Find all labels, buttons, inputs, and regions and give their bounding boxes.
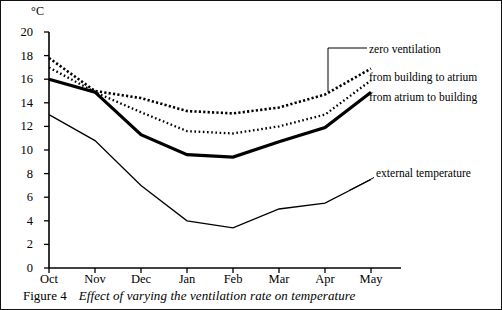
figure-caption: Figure 4Effect of varying the ventilatio… xyxy=(23,289,355,303)
y-axis-tick-label: 8 xyxy=(7,168,33,181)
y-axis-tick-label: 4 xyxy=(7,215,33,228)
series-label-from-building-to-atrium: from building to atrium xyxy=(369,71,477,83)
series-line-zero-ventilation xyxy=(49,58,371,113)
x-axis-tick-label: Jan xyxy=(164,273,210,286)
chart-plot-area: °C 02468101214161820 OctNovDecJanFebMarA… xyxy=(1,1,502,283)
y-axis-tick-label: 2 xyxy=(7,238,33,251)
y-axis-tick-label: 16 xyxy=(7,73,33,86)
leader-line-zero-ventilation xyxy=(328,48,367,92)
x-axis-tick-label: Dec xyxy=(118,273,164,286)
series-label-from-atrium-to-building: from atrium to building xyxy=(369,91,477,103)
series-line-from-building-to-atrium xyxy=(49,67,371,133)
figure-container: °C 02468101214161820 OctNovDecJanFebMarA… xyxy=(0,0,502,310)
series-line-external-temperature xyxy=(49,115,371,228)
y-axis-tick-label: 12 xyxy=(7,120,33,133)
axis-group xyxy=(44,32,401,273)
y-axis-tick-label: 18 xyxy=(7,50,33,63)
x-axis-tick-label: Apr xyxy=(302,273,348,286)
leader-line-external-temperature xyxy=(349,178,374,191)
x-axis-tick-label: Feb xyxy=(210,273,256,286)
x-axis-tick-label: Oct xyxy=(26,273,72,286)
series-group xyxy=(49,58,371,228)
y-axis-tick-label: 6 xyxy=(7,191,33,204)
series-label-external-temperature: external temperature xyxy=(376,167,471,179)
series-label-zero-ventilation: zero ventilation xyxy=(369,43,441,55)
y-axis-tick-label: 14 xyxy=(7,97,33,110)
y-axis-tick-label: 20 xyxy=(7,26,33,39)
figure-caption-text: Effect of varying the ventilation rate o… xyxy=(79,288,356,303)
figure-caption-number: Figure 4 xyxy=(23,288,67,303)
x-axis-tick-label: May xyxy=(348,273,394,286)
x-axis-tick-label: Mar xyxy=(256,273,302,286)
x-axis-tick-label: Nov xyxy=(72,273,118,286)
y-axis-tick-label: 10 xyxy=(7,144,33,157)
